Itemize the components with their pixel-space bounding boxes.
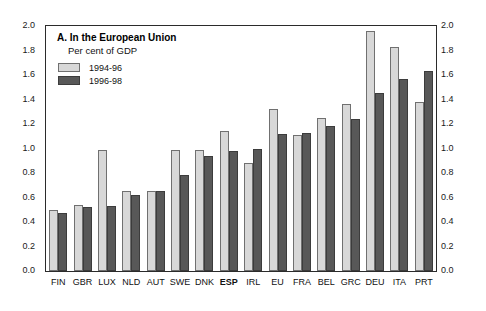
bar <box>399 79 408 271</box>
chart-container: 2.01.81.61.41.21.00.80.60.40.20.0 2.01.8… <box>0 0 486 311</box>
bar <box>366 31 375 271</box>
legend-item: 1996-98 <box>58 75 122 86</box>
y-tick-label-left: 0.2 <box>22 242 35 251</box>
x-tick-label-esp: ESP <box>217 276 241 290</box>
legend-label: 1996-98 <box>89 76 122 86</box>
bar <box>317 118 326 271</box>
y-tick-label-left: 0.8 <box>22 168 35 177</box>
y-tick-label-right: 0.0 <box>441 266 454 275</box>
bar-group <box>241 26 265 271</box>
x-tick-label-dnk: DNK <box>192 276 216 290</box>
legend-label: 1994-96 <box>89 63 122 73</box>
bar <box>293 135 302 271</box>
bar <box>415 102 424 271</box>
y-tick-label-left: 0.6 <box>22 193 35 202</box>
y-tick-label-left: 2.0 <box>22 21 35 30</box>
y-tick-label-right: 0.2 <box>441 242 454 251</box>
bar <box>49 210 58 271</box>
legend-item: 1994-96 <box>58 62 122 73</box>
bar <box>390 47 399 271</box>
bar-group <box>290 26 314 271</box>
bar <box>244 163 253 271</box>
bar <box>326 126 335 271</box>
x-tick-label-nld: NLD <box>119 276 143 290</box>
bar <box>98 150 107 271</box>
bar-group <box>144 26 168 271</box>
x-tick-label-irl: IRL <box>241 276 265 290</box>
bar-group <box>339 26 363 271</box>
y-tick-label-left: 1.6 <box>22 70 35 79</box>
x-tick-label-swe: SWE <box>168 276 192 290</box>
y-tick-label-right: 1.4 <box>441 95 454 104</box>
bar-group <box>387 26 411 271</box>
x-tick-label-ita: ITA <box>387 276 411 290</box>
bar <box>220 131 229 271</box>
x-tick-label-prt: PRT <box>412 276 436 290</box>
bar <box>424 71 433 271</box>
bar <box>156 191 165 271</box>
y-tick-label-right: 0.4 <box>441 217 454 226</box>
chart-title: A. In the European Union <box>57 31 176 44</box>
x-tick-label-grc: GRC <box>339 276 363 290</box>
legend-swatch <box>58 63 80 72</box>
y-tick-label-left: 1.8 <box>22 46 35 55</box>
bar-group <box>314 26 338 271</box>
bar <box>229 151 238 271</box>
x-tick-label-bel: BEL <box>314 276 338 290</box>
y-tick-label-left: 0.4 <box>22 217 35 226</box>
chart-subtitle: Per cent of GDP <box>68 44 176 57</box>
bar-group <box>412 26 436 271</box>
x-tick-label-eu: EU <box>265 276 289 290</box>
x-tick-label-gbr: GBR <box>70 276 94 290</box>
y-tick-label-right: 1.0 <box>441 144 454 153</box>
x-tick-label-lux: LUX <box>95 276 119 290</box>
legend-swatch <box>58 76 80 85</box>
y-tick-label-right: 0.6 <box>441 193 454 202</box>
bar <box>351 119 360 271</box>
y-tick-label-left: 1.4 <box>22 95 35 104</box>
bar <box>195 150 204 271</box>
y-tick-label-right: 1.8 <box>441 46 454 55</box>
x-tick-label-fin: FIN <box>46 276 70 290</box>
x-tick-label-aut: AUT <box>144 276 168 290</box>
y-tick-label-left: 1.0 <box>22 144 35 153</box>
y-tick-label-left: 0.0 <box>22 266 35 275</box>
y-tick-label-right: 0.8 <box>441 168 454 177</box>
bar <box>375 93 384 271</box>
bar <box>83 207 92 271</box>
bar <box>122 191 131 271</box>
bar-group <box>363 26 387 271</box>
bar-group <box>192 26 216 271</box>
bar <box>147 191 156 271</box>
bar <box>58 213 67 271</box>
bar <box>171 150 180 271</box>
y-tick-label-right: 1.2 <box>441 119 454 128</box>
bar <box>74 205 83 271</box>
bar <box>107 206 116 271</box>
title-block: A. In the European Union Per cent of GDP <box>57 31 176 57</box>
x-tick-label-fra: FRA <box>290 276 314 290</box>
bar <box>180 175 189 271</box>
bar-group <box>168 26 192 271</box>
bar <box>278 134 287 271</box>
bar <box>269 109 278 271</box>
y-tick-label-right: 2.0 <box>441 21 454 30</box>
bar <box>342 104 351 271</box>
bar-group <box>265 26 289 271</box>
bar-group <box>217 26 241 271</box>
bar <box>253 149 262 272</box>
bar <box>302 133 311 271</box>
x-axis-labels: FINGBRLUXNLDAUTSWEDNKESPIRLEUFRABELGRCDE… <box>46 276 436 290</box>
chart-legend: 1994-961996-98 <box>58 62 122 88</box>
bar <box>204 156 213 271</box>
bar <box>131 195 140 271</box>
y-tick-label-right: 1.6 <box>441 70 454 79</box>
bar-group <box>119 26 143 271</box>
x-tick-label-deu: DEU <box>363 276 387 290</box>
y-tick-label-left: 1.2 <box>22 119 35 128</box>
